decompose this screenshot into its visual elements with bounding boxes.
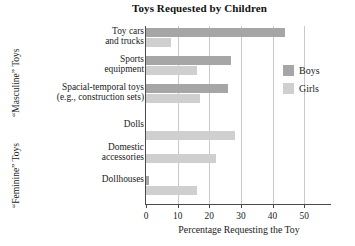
chart-title: Toys Requested by Children (0, 2, 355, 14)
tick-mark (241, 204, 242, 208)
category-label-line2: accessories (18, 152, 144, 162)
bar-boys (146, 28, 285, 37)
bar-chart: Toys Requested by Children “Masculine” T… (0, 0, 355, 246)
tick-label: 10 (163, 211, 193, 221)
category-label-domestic-accessories: Domestic accessories (18, 142, 144, 163)
category-label-toy-cars: Toy cars and trucks (18, 26, 144, 47)
tick-label: 40 (258, 211, 288, 221)
bar-girls (146, 154, 216, 163)
tick-mark (178, 204, 179, 208)
category-label-spacial-temporal-toys: Spacial-temporal toys (e.g., constructio… (18, 82, 144, 103)
legend: BoysGirls (283, 62, 351, 98)
bar-girls (146, 131, 235, 140)
category-label-sports-equipment: Sports equipment (18, 54, 144, 75)
tick-mark (146, 204, 147, 208)
gridline (273, 26, 274, 204)
x-axis-line (145, 204, 331, 205)
category-label-line1: Dollhouses (102, 174, 144, 184)
category-label-dolls: Dolls (18, 119, 144, 129)
category-label-line1: Spacial-temporal toys (62, 82, 144, 92)
chart-title-text: Toys Requested by Children (132, 2, 267, 14)
bar-boys (146, 56, 231, 65)
bar-boys (146, 176, 149, 185)
tick-label: 20 (194, 211, 224, 221)
category-label-line2: (e.g., construction sets) (18, 92, 144, 102)
tick-mark (304, 204, 305, 208)
legend-label-text: Boys (299, 65, 320, 76)
bar-girls (146, 66, 197, 75)
plot-area: 01020304050 (146, 26, 320, 204)
legend-swatch-girls (283, 83, 294, 94)
tick-mark (273, 204, 274, 208)
bar-girls (146, 186, 197, 195)
gridline (304, 26, 305, 204)
bar-boys (146, 84, 228, 93)
category-label-dollhouses: Dollhouses (18, 174, 144, 184)
tick-mark (209, 204, 210, 208)
gridline (241, 26, 242, 204)
tick-label: 30 (226, 211, 256, 221)
gridline (178, 26, 179, 204)
tick-label: 50 (289, 211, 319, 221)
legend-label-text: Girls (299, 83, 319, 94)
x-axis-title-text: Percentage Requesting the Toy (178, 224, 299, 235)
category-label-line1: Toy cars (112, 26, 144, 36)
tick-label: 0 (131, 211, 161, 221)
gridline (209, 26, 210, 204)
bar-girls (146, 94, 200, 103)
x-axis-title: Percentage Requesting the Toy (146, 224, 332, 235)
legend-swatch-boys (283, 65, 294, 76)
category-label-line1: Dolls (124, 119, 144, 129)
category-label-line1: Domestic (108, 142, 144, 152)
category-label-line2: equipment (18, 64, 144, 74)
legend-item-boys: Boys (283, 62, 351, 78)
category-label-line1: Sports (120, 54, 144, 64)
legend-item-girls: Girls (283, 80, 351, 96)
category-label-line2: and trucks (18, 36, 144, 46)
bar-girls (146, 38, 171, 47)
